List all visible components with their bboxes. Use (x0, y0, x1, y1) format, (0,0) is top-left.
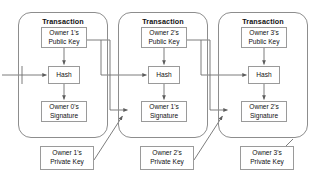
transaction-1-hash-box: Hash (48, 66, 80, 84)
transaction-3-hash-box: Hash (248, 66, 280, 84)
owner-1-signature-box: Owner 1's Signature (141, 101, 187, 122)
owner-1-public-key-box: Owner 1's Public Key (41, 27, 87, 48)
transaction-1-title: Transaction (18, 17, 108, 26)
owner-2-signature-line1: Owner 2's (249, 103, 278, 111)
owner-3-public-key-line1: Owner 3's (249, 29, 278, 37)
owner-1-public-key-line1: Owner 1's (49, 29, 78, 37)
transaction-chain-diagram: Transaction Owner 1's Public Key Hash Ow… (0, 0, 323, 182)
owner-1-private-key-line1: Owner 1's (52, 149, 81, 158)
owner-3-private-key-line2: Private Key (250, 158, 284, 167)
transaction-3-title: Transaction (218, 17, 308, 26)
owner-1-signature-line1: Owner 1's (149, 103, 178, 111)
owner-2-signature-box: Owner 2's Signature (241, 101, 287, 122)
owner-3-private-key-line1: Owner 3's (252, 149, 281, 158)
transaction-2-hash-label: Hash (156, 71, 171, 79)
owner-2-public-key-line1: Owner 2's (149, 29, 178, 37)
owner-1-public-key-line2: Public Key (48, 38, 79, 46)
transaction-2-title: Transaction (118, 17, 208, 26)
owner-2-public-key-line2: Public Key (148, 38, 179, 46)
transaction-2-hash-box: Hash (148, 66, 180, 84)
owner-2-private-key-box: Owner 2's Private Key (140, 146, 194, 170)
owner-1-signature-line2: Signature (150, 112, 178, 120)
owner-1-private-key-box: Owner 1's Private Key (40, 146, 94, 170)
transaction-1-hash-label: Hash (56, 71, 71, 79)
owner-0-signature-line1: Owner 0's (49, 103, 78, 111)
owner-3-public-key-box: Owner 3's Public Key (241, 27, 287, 48)
owner-3-private-key-box: Owner 3's Private Key (240, 146, 294, 170)
owner-2-private-key-line1: Owner 2's (152, 149, 181, 158)
owner-3-public-key-line2: Public Key (248, 38, 279, 46)
owner-0-signature-line2: Signature (50, 112, 78, 120)
owner-2-public-key-box: Owner 2's Public Key (141, 27, 187, 48)
owner-1-private-key-line2: Private Key (50, 158, 84, 167)
owner-2-private-key-line2: Private Key (150, 158, 184, 167)
transaction-3-hash-label: Hash (256, 71, 271, 79)
owner-0-signature-box: Owner 0's Signature (41, 101, 87, 122)
owner-2-signature-line2: Signature (250, 112, 278, 120)
arrow-privkey3-leader (286, 139, 293, 146)
